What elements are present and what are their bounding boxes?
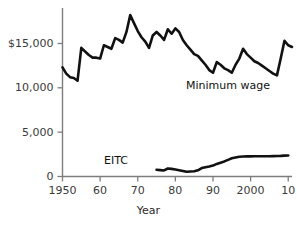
series-line-eitc xyxy=(157,156,289,172)
y-axis-tick-label: $15,000 xyxy=(0,38,54,49)
y-axis-tick-label: 5,000 xyxy=(0,127,54,138)
series-label-minimum-wage: Minimum wage xyxy=(186,80,270,91)
y-axis-ticks xyxy=(58,43,63,176)
x-axis-tick-label: 10 xyxy=(258,185,297,196)
y-axis-tick-label: 10,000 xyxy=(0,82,54,93)
chart-container: 05,00010,000$15,000 195060708090200010 M… xyxy=(0,0,297,229)
series-line-minimum-wage xyxy=(63,15,293,81)
x-axis-ticks xyxy=(63,177,289,182)
chart-axes xyxy=(62,8,292,177)
x-axis-title: Year xyxy=(0,205,297,216)
chart-series-lines xyxy=(63,15,293,172)
y-axis-tick-label: 0 xyxy=(0,171,54,182)
series-label-eitc: EITC xyxy=(104,155,128,166)
